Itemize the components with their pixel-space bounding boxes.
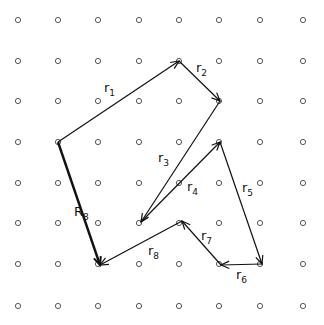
lattice-point [176,303,181,308]
lattice-point [216,220,221,225]
lattice-point [300,139,305,144]
lattice-point [300,58,305,63]
lattice-point [136,58,141,63]
vector-label: R8 [74,204,89,222]
lattice-point [15,220,20,225]
lattice-point [300,17,305,22]
lattice-point [55,261,60,266]
lattice-point [95,98,100,103]
lattice-point [136,180,141,185]
lattice-point [55,220,60,225]
lattice-point [300,180,305,185]
lattice-point [95,58,100,63]
lattice-point [15,58,20,63]
vector-r6-arrow [221,261,262,268]
lattice-point [55,303,60,308]
vector-label: r6 [236,267,247,285]
vector-r1-arrow [58,61,179,142]
lattice-point [257,139,262,144]
vector-r8-arrow [100,221,182,265]
lattice-point [257,58,262,63]
lattice-point [300,220,305,225]
lattice-point [15,261,20,266]
lattice-point [136,261,141,266]
lattice-point [55,17,60,22]
lattice-point [300,303,305,308]
lattice-point [136,17,141,22]
lattice-point [257,220,262,225]
lattice-point [216,17,221,22]
vector-label: r8 [148,243,159,261]
lattice-point [257,17,262,22]
lattice-point [95,303,100,308]
arrowhead-icon [170,61,179,69]
lattice-point [55,98,60,103]
lattice-point [176,98,181,103]
lattice-point [15,180,20,185]
lattice-point [95,220,100,225]
lattice-point [55,180,60,185]
lattice-point [136,139,141,144]
vector-label: r7 [201,228,212,246]
lattice-point [95,180,100,185]
vector-label: r3 [158,150,169,168]
lattice-point [95,139,100,144]
lattice-point [55,58,60,63]
vector-diagram: r1r2r3r4r5r6r7r8R8 [0,0,324,325]
vector-labels: r1r2r3r4r5r6r7r8R8 [74,60,253,285]
lattice-point [176,139,181,144]
vector-label: r4 [187,179,198,197]
vector-label: r5 [242,180,253,198]
lattice-point [136,98,141,103]
lattice-point [216,58,221,63]
vector-label: r2 [196,60,207,78]
lattice-point [95,17,100,22]
lattice-point [300,261,305,266]
vector-r5-arrow [220,142,263,264]
lattice-point [216,303,221,308]
lattice-point [216,180,221,185]
lattice-point [257,303,262,308]
lattice-point [300,98,305,103]
vector-label: r1 [104,80,115,98]
lattice-point [15,139,20,144]
lattice-point [257,98,262,103]
lattice-point [15,17,20,22]
lattice-point [136,303,141,308]
vector-r3-arrow [141,101,220,222]
lattice-point [257,180,262,185]
lattice-point [15,98,20,103]
vector-r4-arrow [141,142,220,222]
lattice-point [176,261,181,266]
lattice-point [176,17,181,22]
lattice-point [15,303,20,308]
